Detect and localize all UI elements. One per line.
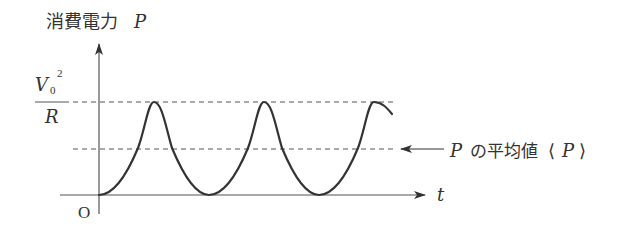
max-numerator-sup: 2: [57, 67, 63, 79]
y-axis-title-var: P: [133, 11, 147, 32]
average-var: P: [449, 140, 463, 161]
max-numerator-sub: 0: [50, 84, 56, 96]
power-diagram: 消費電力 P O t V 0 2 R P の平均値 ⟨ P ⟩: [0, 0, 623, 227]
average-bracket-right: ⟩: [579, 141, 586, 161]
y-axis-title: 消費電力 P: [46, 11, 147, 32]
max-denominator: R: [44, 106, 59, 127]
origin-label: O: [78, 203, 90, 222]
average-text-jp: の平均値: [470, 141, 538, 161]
average-bracket-var: P: [561, 140, 575, 161]
max-numerator-var: V: [35, 74, 50, 95]
average-bracket-left: ⟨: [548, 141, 555, 161]
average-annotation: P の平均値 ⟨ P ⟩: [449, 140, 586, 161]
x-axis-label: t: [437, 184, 445, 205]
y-axis-title-jp: 消費電力: [46, 11, 118, 32]
max-level-label: V 0 2 R: [35, 67, 69, 127]
